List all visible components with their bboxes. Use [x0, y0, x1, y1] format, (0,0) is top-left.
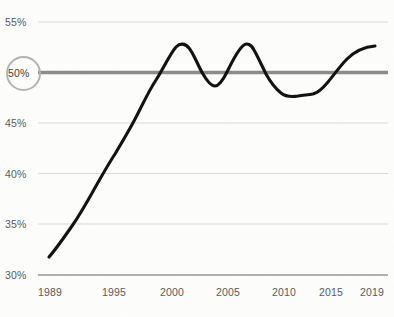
- x-tick-label-2005: 2005: [216, 286, 240, 298]
- x-tick-label-1995: 1995: [102, 286, 126, 298]
- highlight-ring-50-percent: [6, 56, 41, 91]
- x-tick-label-1989: 1989: [38, 286, 62, 298]
- series-line: [49, 44, 375, 257]
- x-tick-label-2015: 2015: [319, 286, 343, 298]
- y-tick-label-35: 35%: [5, 218, 26, 230]
- y-tick-label-55: 55%: [5, 16, 26, 28]
- series-layer: [0, 0, 394, 317]
- y-tick-label-45: 45%: [5, 117, 26, 129]
- x-tick-label-2010: 2010: [272, 286, 296, 298]
- line-chart: 55% 50% 45% 40% 35% 30% 1989 1995 2000 2…: [0, 0, 394, 317]
- y-tick-label-30: 30%: [5, 269, 26, 281]
- x-tick-label-2019: 2019: [360, 286, 384, 298]
- y-tick-label-40: 40%: [5, 168, 26, 180]
- x-tick-label-2000: 2000: [160, 286, 184, 298]
